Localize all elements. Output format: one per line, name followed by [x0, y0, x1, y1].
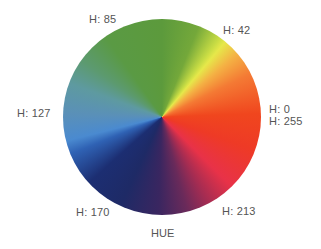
hue-label-127: H: 127 — [17, 107, 51, 119]
hue-color-wheel — [63, 19, 261, 215]
hue-label-255: H: 255 — [269, 115, 303, 127]
hue-label-85: H: 85 — [89, 13, 116, 25]
hue-label-170: H: 170 — [76, 206, 110, 218]
hue-label-0: H: 0 — [269, 103, 290, 115]
hue-wheel-diagram: H: 85 H: 42 H: 127 H: 0 H: 255 H: 170 H:… — [0, 0, 321, 249]
diagram-caption: HUE — [151, 227, 174, 239]
hue-label-42: H: 42 — [223, 24, 250, 36]
hue-label-213: H: 213 — [222, 205, 256, 217]
